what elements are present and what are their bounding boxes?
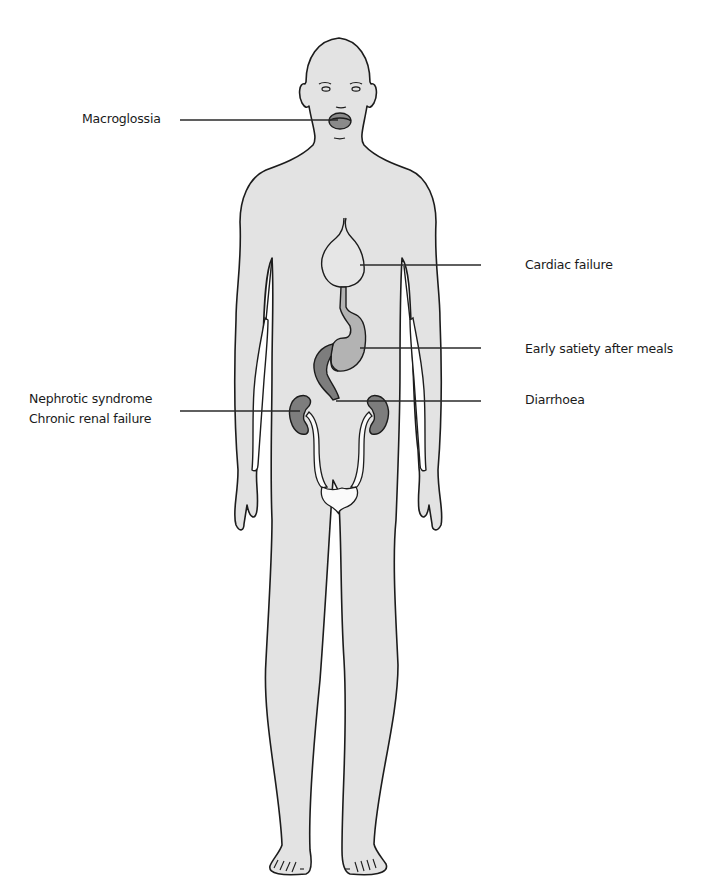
body-diagram: Macroglossia Cardiac failure Early satie… xyxy=(0,0,717,895)
label-macroglossia: Macroglossia xyxy=(82,111,161,127)
label-chronic-renal-failure: Chronic renal failure xyxy=(29,411,151,427)
label-cardiac-failure: Cardiac failure xyxy=(525,257,613,273)
body-silhouette xyxy=(235,38,442,875)
label-early-satiety: Early satiety after meals xyxy=(525,341,673,357)
label-nephrotic-syndrome: Nephrotic syndrome xyxy=(29,391,152,407)
label-diarrhoea: Diarrhoea xyxy=(525,392,585,408)
body-figure xyxy=(0,0,717,895)
tongue xyxy=(329,113,351,129)
